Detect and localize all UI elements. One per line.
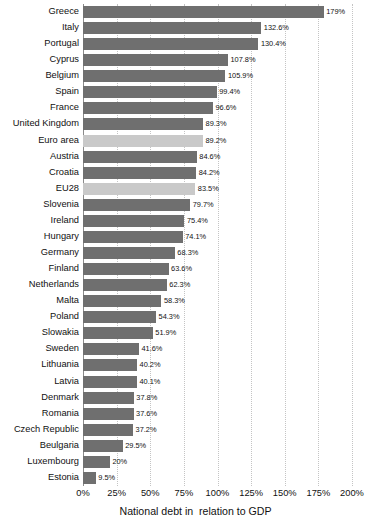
bar-row: EU2883.5%	[83, 181, 352, 197]
x-tick-label: 0%	[76, 489, 89, 498]
bar-row: Netherlands62.3%	[83, 277, 352, 293]
value-label: 40.2%	[140, 362, 161, 369]
bar-row: United Kingdom89.3%	[83, 116, 352, 132]
x-tick-label: 125%	[239, 489, 263, 498]
bar	[83, 343, 139, 355]
value-label: 37.8%	[136, 394, 157, 401]
bar	[83, 199, 190, 211]
value-label: 84.2%	[199, 169, 220, 176]
value-label: 130.4%	[261, 40, 286, 47]
category-label: Slowakia	[42, 329, 79, 338]
bar-row: Finland63.6%	[83, 261, 352, 277]
category-label: Denmark	[41, 393, 79, 402]
value-label: 68.3%	[177, 249, 198, 256]
value-label: 105.9%	[228, 73, 253, 80]
bar	[83, 102, 213, 114]
bar	[83, 135, 203, 147]
bar	[83, 183, 195, 195]
bar	[83, 376, 137, 388]
bar-row: Poland54.3%	[83, 309, 352, 325]
value-label: 84.6%	[199, 153, 220, 160]
value-label: 58.3%	[164, 298, 185, 305]
bar-row: Croatia84.2%	[83, 165, 352, 181]
value-label: 75.4%	[187, 217, 208, 224]
gridline-200	[352, 4, 353, 486]
value-label: 20%	[112, 458, 127, 465]
bar-row: Portugal130.4%	[83, 36, 352, 52]
bar	[83, 279, 167, 291]
bar-row: Italy132.6%	[83, 20, 352, 36]
bar-row: Germany68.3%	[83, 245, 352, 261]
category-label: Sweden	[45, 345, 79, 354]
bar-row: Slowakia51.9%	[83, 325, 352, 341]
category-label: Estonia	[48, 473, 79, 482]
bar	[83, 408, 134, 420]
x-tick-label: 175%	[306, 489, 330, 498]
value-label: 79.7%	[193, 201, 214, 208]
category-label: Italy	[62, 23, 79, 32]
category-label: Netherlands	[29, 281, 79, 290]
bar-rows: Greece179%Italy132.6%Portugal130.4%Cypru…	[83, 4, 352, 486]
bar-row: Sweden41.6%	[83, 341, 352, 357]
bar	[83, 247, 175, 259]
value-label: 62.3%	[169, 281, 190, 288]
bar-row: Lithuania40.2%	[83, 357, 352, 373]
category-label: Portugal	[44, 40, 79, 49]
category-label: Romania	[42, 409, 79, 418]
bar-row: Spain99.4%	[83, 84, 352, 100]
bar-row: Czech Republic37.2%	[83, 422, 352, 438]
category-label: Czech Republic	[14, 425, 79, 434]
bar	[83, 311, 156, 323]
bar-row: Denmark37.8%	[83, 390, 352, 406]
bar	[83, 359, 137, 371]
value-label: 132.6%	[264, 24, 289, 31]
bar	[83, 38, 258, 50]
bar	[83, 440, 123, 452]
category-label: Cyprus	[50, 56, 79, 65]
bar	[83, 472, 96, 484]
category-label: Euro area	[38, 136, 79, 145]
bar	[83, 327, 153, 339]
bar-row: Greece179%	[83, 4, 352, 20]
bar	[83, 54, 228, 66]
value-label: 83.5%	[198, 185, 219, 192]
x-axis-title: National debt in relation to GDP	[0, 505, 391, 517]
value-label: 96.6%	[215, 105, 236, 112]
bar	[83, 392, 134, 404]
value-label: 99.4%	[219, 89, 240, 96]
category-label: Croatia	[49, 168, 79, 177]
bar	[83, 231, 183, 243]
category-label: Germany	[41, 248, 79, 257]
bar-row: Euro area89.2%	[83, 133, 352, 149]
value-label: 9.5%	[98, 474, 115, 481]
x-tick-label: 200%	[340, 489, 364, 498]
value-label: 51.9%	[155, 330, 176, 337]
category-label: Hungary	[44, 232, 79, 241]
bar-row: Estonia9.5%	[83, 470, 352, 486]
x-tick-label: 150%	[273, 489, 297, 498]
bar	[83, 263, 169, 275]
value-label: 89.2%	[205, 137, 226, 144]
bar	[83, 70, 225, 82]
value-label: 107.8%	[230, 57, 255, 64]
value-label: 41.6%	[141, 346, 162, 353]
category-label: Beulgaria	[40, 441, 79, 450]
value-label: 54.3%	[159, 314, 180, 321]
value-label: 37.6%	[136, 410, 157, 417]
category-label: Poland	[50, 313, 79, 322]
value-label: 40.1%	[139, 378, 160, 385]
x-tick-label: 100%	[206, 489, 230, 498]
value-label: 37.2%	[136, 426, 157, 433]
value-label: 179%	[326, 8, 345, 15]
bar	[83, 6, 324, 18]
bar	[83, 456, 110, 468]
bar-row: Beulgaria29.5%	[83, 438, 352, 454]
bar-row: France96.6%	[83, 100, 352, 116]
bar-row: Ireland75.4%	[83, 213, 352, 229]
bar	[83, 167, 196, 179]
x-axis: 0%25%50%75%100%125%150%175%200%	[83, 486, 352, 502]
bar	[83, 151, 197, 163]
category-label: Austria	[50, 152, 79, 161]
category-label: United Kingdom	[13, 120, 79, 129]
bar-row: Hungary74.1%	[83, 229, 352, 245]
